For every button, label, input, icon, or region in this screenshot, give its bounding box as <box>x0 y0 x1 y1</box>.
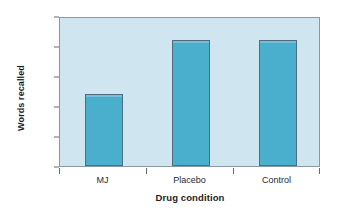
x-tick-mark <box>319 168 320 174</box>
plot-area <box>59 17 320 167</box>
y-axis-title-text: Words recalled <box>16 65 26 131</box>
x-tick-label: Placebo <box>173 175 206 185</box>
bar <box>85 94 123 166</box>
x-tick-mark <box>146 168 147 174</box>
x-tick-mark <box>233 168 234 174</box>
x-tick-label: Control <box>262 175 291 185</box>
x-tick-mark <box>59 168 60 174</box>
x-axis-title: Drug condition <box>59 192 321 203</box>
bar <box>172 40 210 166</box>
x-tick-label: MJ <box>97 175 109 185</box>
bar-chart: Words recalled 0510152025 MJPlaceboContr… <box>0 0 340 216</box>
y-axis-title: Words recalled <box>14 48 28 148</box>
bar <box>259 40 297 166</box>
